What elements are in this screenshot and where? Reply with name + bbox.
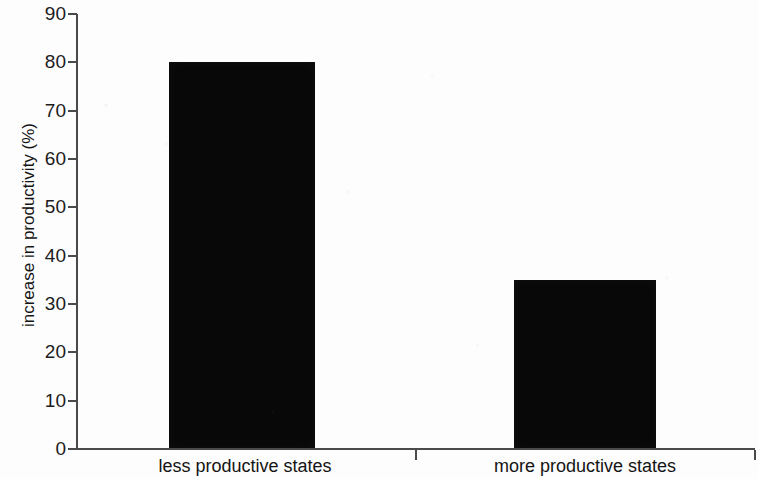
y-axis-tick — [68, 13, 77, 15]
bar — [514, 280, 656, 449]
plot-area: 9080706050403020100 increase in producti… — [0, 0, 758, 479]
x-axis-tick — [754, 450, 756, 460]
y-axis-title: increase in productivity (%) — [20, 100, 38, 350]
y-axis-tick-label: 80 — [20, 52, 66, 71]
y-axis-tick — [68, 110, 77, 112]
y-axis-tick — [68, 303, 77, 305]
y-axis-tick-label-wrap: 80 — [14, 52, 66, 71]
y-axis-tick-label: 90 — [20, 4, 66, 23]
y-axis-tick — [68, 351, 77, 353]
y-axis-tick-label-wrap: 10 — [14, 391, 66, 410]
x-axis-category-label: less productive states — [85, 456, 405, 476]
y-axis-tick — [68, 158, 77, 160]
y-axis-tick — [68, 400, 77, 402]
bar — [169, 62, 315, 449]
y-axis-tick-label-wrap: 90 — [14, 4, 66, 23]
y-axis-tick — [68, 255, 77, 257]
y-axis-tick-label: 0 — [20, 439, 66, 458]
y-axis-line — [76, 14, 78, 450]
x-axis-tick — [415, 450, 417, 460]
y-axis-tick — [68, 206, 77, 208]
bar-chart-figure: 9080706050403020100 increase in producti… — [0, 0, 758, 479]
y-axis-tick-label: 10 — [20, 391, 66, 410]
y-axis-tick — [68, 61, 77, 63]
x-axis-category-label: more productive states — [425, 456, 745, 476]
y-axis-tick-label-wrap: 0 — [14, 439, 66, 458]
